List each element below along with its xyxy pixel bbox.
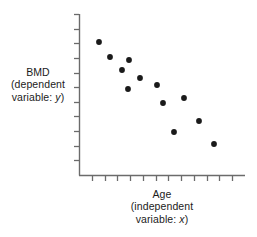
x-axis-label-line1: Age xyxy=(106,188,218,200)
y-axis-label: BMD (dependent variable: y) xyxy=(0,66,76,103)
data-point xyxy=(154,82,160,88)
x-axis-label: Age (independent variable: x) xyxy=(106,188,218,225)
axes-group xyxy=(79,14,245,176)
x-axis-label-line2: (independent xyxy=(106,200,218,212)
data-point xyxy=(137,75,143,81)
y-axis-label-line3-prefix: variable: xyxy=(12,91,56,103)
data-point xyxy=(126,57,132,63)
data-point xyxy=(96,39,102,45)
data-point xyxy=(181,95,187,101)
data-point xyxy=(125,86,131,92)
y-axis-label-line2: (dependent xyxy=(0,78,76,90)
data-point xyxy=(107,54,113,60)
data-point xyxy=(160,100,166,106)
x-axis-label-line3-suffix: ) xyxy=(185,213,189,225)
y-axis-label-line1: BMD xyxy=(0,66,76,78)
data-point xyxy=(119,67,125,73)
y-axis-label-line3: variable: y) xyxy=(0,91,76,103)
data-point xyxy=(171,129,177,135)
y-axis-label-line3-suffix: ) xyxy=(61,91,65,103)
x-axis-label-line3-prefix: variable: xyxy=(136,213,180,225)
data-point xyxy=(196,118,202,124)
scatter-plot-figure: BMD (dependent variable: y) Age (indepen… xyxy=(0,0,257,237)
x-axis-label-line3: variable: x) xyxy=(106,213,218,225)
data-points-group xyxy=(96,39,217,147)
data-point xyxy=(211,141,217,147)
